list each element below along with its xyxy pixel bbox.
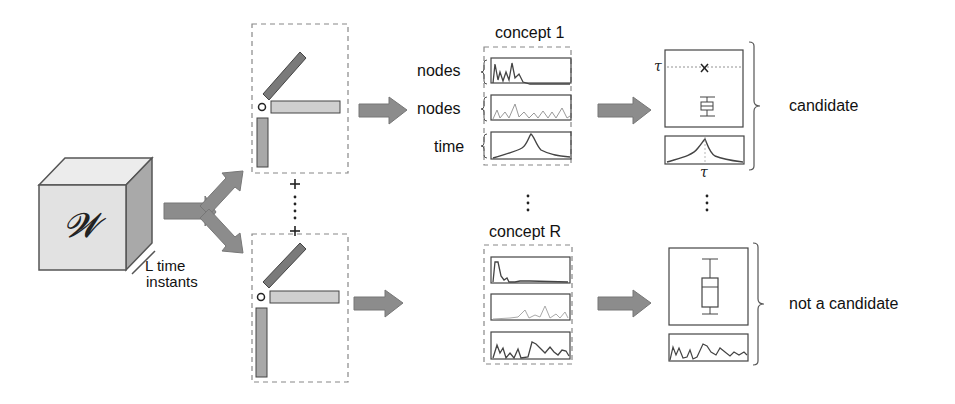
component-R: [252, 234, 348, 382]
candidate-boxplot: [665, 42, 760, 170]
diagram-canvas: 𝓦 L time instants concept 1 nodes nodes …: [0, 0, 955, 404]
concept-R-title: concept R: [489, 223, 561, 241]
outcome-not-candidate: not a candidate: [789, 295, 898, 313]
split-arrow: [164, 171, 243, 253]
component-1: [252, 24, 348, 173]
threshold-tau-x: τ: [700, 164, 708, 180]
arrows-to-concepts: [354, 97, 651, 317]
factor-label-time: time: [434, 138, 464, 156]
vertical-ellipsis-right: [527, 195, 709, 212]
tensor-symbol: 𝓦: [64, 205, 100, 246]
factor-label-nodes-2: nodes: [417, 100, 461, 118]
time-mode-label-2: instants: [146, 273, 198, 290]
outcome-candidate: candidate: [789, 97, 858, 115]
concept-1-factors: [481, 47, 571, 165]
time-mode-label-1: L time: [145, 257, 185, 274]
sum-symbols: [290, 179, 300, 236]
factor-label-nodes-1: nodes: [417, 62, 461, 80]
threshold-tau-y: τ: [654, 58, 662, 74]
diagram-graphics: [0, 0, 955, 404]
noncandidate-boxplot: [669, 243, 764, 365]
vertical-ellipsis-left: [294, 196, 297, 220]
concept-R-factors: [484, 245, 572, 364]
concept-1-title: concept 1: [495, 24, 564, 42]
